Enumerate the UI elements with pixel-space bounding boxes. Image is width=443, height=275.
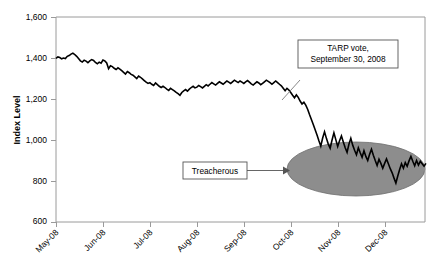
x-tick-label-jul: Jul-08 <box>131 227 155 251</box>
x-tick-label-jun: Jun-08 <box>82 227 108 253</box>
x-tick-label-may: May-08 <box>33 227 60 254</box>
y-tick-label-600: 600 <box>33 216 47 226</box>
chart-container: 1,600 1,400 1,200 1,000 800 600 May-08 J… <box>0 0 443 275</box>
treacherous-callout-label: Treacherous <box>192 166 238 176</box>
x-tick-label-dec: Dec-08 <box>363 227 390 254</box>
tarp-callout-line2: September 30, 2008 <box>310 54 386 64</box>
y-tick-label-800: 800 <box>33 176 47 186</box>
x-tick-label-nov: Nov-08 <box>316 227 343 254</box>
x-tick-label-aug: Aug-08 <box>175 227 202 254</box>
y-tick-label-1200: 1,200 <box>26 94 48 104</box>
tarp-callout-line1: TARP vote, <box>327 43 369 53</box>
treacherous-highlight-ellipse <box>287 142 425 196</box>
y-tick-label-1600: 1,600 <box>26 12 48 22</box>
index-level-line-chart: 1,600 1,400 1,200 1,000 800 600 May-08 J… <box>0 0 443 275</box>
x-tick-label-sep: Sep-08 <box>222 227 249 254</box>
x-tick-label-oct: Oct-08 <box>270 227 295 252</box>
highlight-ellipse-group <box>287 142 425 196</box>
y-axis-title: Index Level <box>12 95 22 144</box>
y-tick-label-1400: 1,400 <box>26 53 48 63</box>
y-tick-label-1000: 1,000 <box>26 135 48 145</box>
